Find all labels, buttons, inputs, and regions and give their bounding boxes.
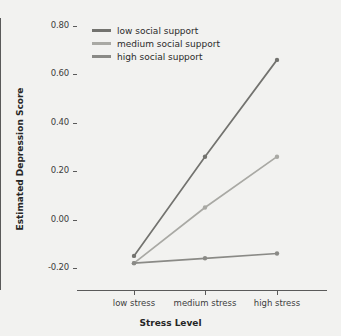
data-point-marker xyxy=(275,154,279,158)
data-point-marker xyxy=(203,205,207,209)
legend-item: medium social support xyxy=(92,37,220,50)
data-point-marker xyxy=(203,256,207,260)
data-point-marker xyxy=(275,58,279,62)
chart-figure: 0.800.600.400.200.00-0.20 low stressmedi… xyxy=(0,0,341,336)
legend: low social supportmedium social supporth… xyxy=(92,24,220,63)
legend-label: low social support xyxy=(117,26,198,36)
legend-label: high social support xyxy=(117,52,203,62)
legend-item: high social support xyxy=(92,50,220,63)
y-axis-title: Estimated Depression Score xyxy=(15,59,25,259)
series-0 xyxy=(132,58,279,258)
legend-swatch-icon xyxy=(92,55,111,58)
legend-swatch-icon xyxy=(92,42,111,45)
data-point-marker xyxy=(132,254,136,258)
series-2 xyxy=(132,251,279,265)
data-point-marker xyxy=(132,261,136,265)
legend-swatch-icon xyxy=(92,29,111,32)
legend-label: medium social support xyxy=(117,39,220,49)
series-1 xyxy=(132,154,279,265)
series-line xyxy=(134,157,277,263)
x-axis-title: Stress Level xyxy=(0,318,341,328)
data-point-marker xyxy=(275,251,279,255)
data-point-marker xyxy=(203,154,207,158)
legend-item: low social support xyxy=(92,24,220,37)
